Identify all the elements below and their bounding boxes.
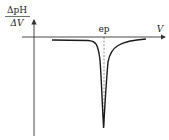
y-axis-label-denominator: ΔV (10, 18, 25, 28)
ep-label: ep (98, 24, 109, 34)
y-axis-label-numerator: ΔpH (7, 5, 27, 15)
derivative-titration-chart: ΔpH ΔV V ep (0, 0, 169, 140)
derivative-curve (52, 39, 146, 128)
x-axis-label: V (157, 24, 165, 34)
